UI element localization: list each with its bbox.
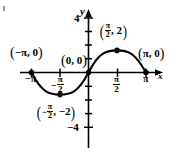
annotation-origin: (0, 0) bbox=[61, 54, 87, 68]
y-value: 2 bbox=[117, 24, 123, 36]
x-axis-label: x bbox=[158, 72, 163, 81]
x-tick-label-pi-over-2: π2 bbox=[113, 76, 120, 95]
x-tick-label-neg-pi-over-2: −π2 bbox=[51, 76, 64, 95]
pi-over-2-fraction: π2 bbox=[105, 22, 111, 39]
close-paren: ) bbox=[123, 23, 127, 40]
pi-over-2-fraction: π2 bbox=[57, 75, 64, 94]
open-paren: ( bbox=[100, 23, 104, 40]
y-value: −2 bbox=[59, 105, 71, 117]
close-paren: ) bbox=[82, 53, 87, 68]
y-axis-label: y bbox=[80, 6, 85, 17]
fraction-denominator: 2 bbox=[105, 30, 111, 39]
fraction-denominator: 2 bbox=[113, 84, 120, 94]
pi-over-2-fraction: π2 bbox=[113, 75, 120, 94]
close-paren: ) bbox=[38, 45, 43, 60]
annotation-pi-over-2-2: (π2, 2) bbox=[99, 23, 128, 40]
x-value: −π bbox=[15, 46, 27, 58]
point-origin bbox=[86, 70, 92, 76]
x-tick-label-neg-pi: −π bbox=[25, 74, 36, 84]
x-tick-label-pi: π bbox=[143, 74, 148, 84]
sine-graph-figure: y x 4 −4 −π −π2 π2 π (−π, 0) (0, 0) (π, … bbox=[0, 0, 174, 154]
annotation-pi-0: (π, 0) bbox=[138, 47, 164, 61]
fraction-numerator: π bbox=[57, 75, 64, 84]
annotation-neg-pi-over-2-neg2: (−π2, −2) bbox=[36, 104, 76, 121]
close-paren: ) bbox=[160, 46, 165, 61]
fraction-numerator: π bbox=[47, 103, 53, 111]
annotation-neg-pi-0: (−π, 0) bbox=[10, 46, 43, 60]
fraction-numerator: π bbox=[113, 75, 120, 84]
point-pi-half-2 bbox=[114, 48, 120, 54]
pi-over-2-fraction: π2 bbox=[47, 103, 53, 120]
close-paren: ) bbox=[71, 104, 75, 121]
fraction-denominator: 2 bbox=[57, 84, 64, 94]
fraction-numerator: π bbox=[105, 22, 111, 30]
open-paren: ( bbox=[37, 104, 41, 121]
fraction-denominator: 2 bbox=[47, 111, 53, 120]
y-tick-label-4: 4 bbox=[74, 13, 80, 24]
x-axis bbox=[20, 69, 163, 76]
y-tick-label-neg-4: −4 bbox=[67, 122, 79, 133]
